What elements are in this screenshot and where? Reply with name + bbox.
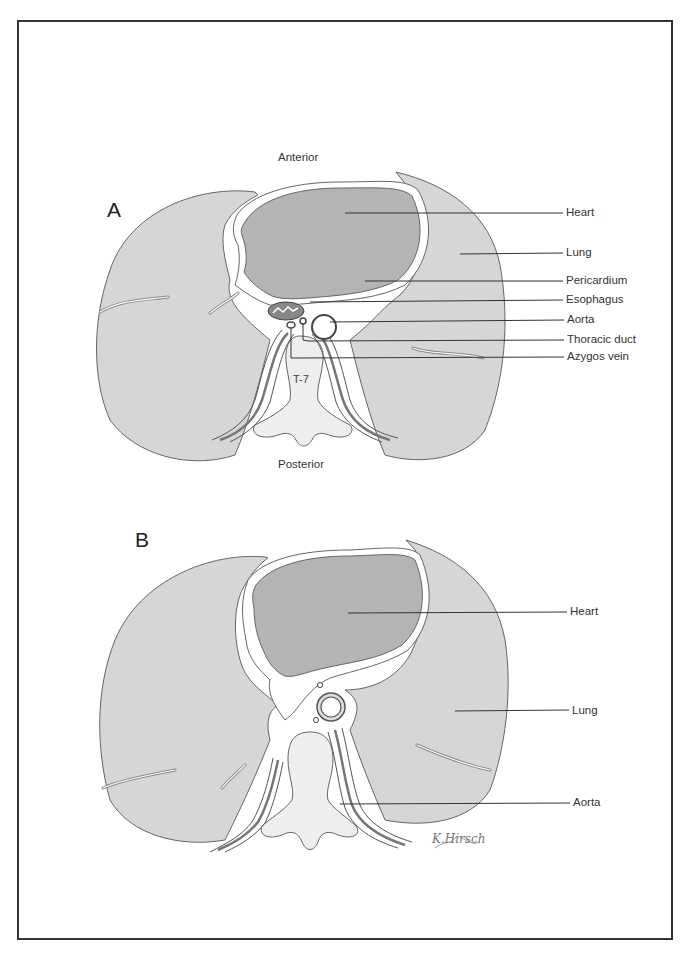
label-heart-b: Heart: [570, 606, 598, 618]
label-aorta-a: Aorta: [567, 314, 595, 326]
panel-a-heart: [241, 188, 420, 299]
panel-a-vertebra-t7: [254, 336, 352, 446]
panel-a-anterior-label: Anterior: [278, 151, 318, 163]
panel-b-diagram: [100, 540, 570, 852]
panel-a-esophagus: [268, 302, 304, 320]
panel-a-diagram: [97, 172, 565, 461]
panel-a-azygos-vein: [287, 322, 295, 328]
label-aorta-b: Aorta: [573, 797, 601, 809]
panel-a-aorta: [312, 315, 336, 339]
label-esophagus-a: Esophagus: [566, 294, 624, 306]
anatomy-illustration: .lung { fill:#d6d6d6; stroke:#666; strok…: [0, 0, 694, 956]
label-lung-b: Lung: [572, 705, 598, 717]
panel-a-letter: A: [107, 198, 121, 222]
label-pericardium-a: Pericardium: [566, 275, 627, 287]
label-thoracic-duct-a: Thoracic duct: [567, 334, 636, 346]
panel-a-posterior-label: Posterior: [278, 458, 324, 470]
panel-b-letter: B: [135, 528, 149, 552]
panel-b-vertebra: [261, 732, 358, 850]
label-heart-a: Heart: [566, 207, 594, 219]
label-lung-a: Lung: [566, 247, 592, 259]
panel-a-vertebra-label: T-7: [293, 373, 309, 385]
label-azygos-vein-a: Azygos vein: [567, 351, 629, 363]
panel-b-heart: [253, 555, 423, 677]
artist-signature: K.Hirsch: [432, 832, 485, 846]
panel-a-thoracic-duct: [300, 318, 306, 324]
